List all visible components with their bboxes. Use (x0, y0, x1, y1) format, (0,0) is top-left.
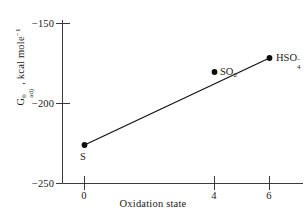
series-line-sulfur (85, 58, 270, 145)
data-point-so2[interactable] (212, 69, 218, 75)
point-label-hso4-base: HSO (276, 52, 297, 63)
y-axis-units: , kcal mole (15, 36, 26, 85)
y-tick-label-minus250: −250 (14, 179, 54, 190)
chart-figure: −150 −200 −250 0 4 6 Oxidation state G0a… (0, 0, 306, 215)
y-axis-title-text: G0adj, kcal mole−1 (15, 28, 26, 105)
data-point-hso4[interactable] (267, 55, 273, 61)
point-label-so2-base: SO (220, 66, 233, 77)
point-label-so2-subscript: 2 (233, 71, 237, 79)
point-label-s: S (80, 152, 86, 163)
point-label-s-text: S (80, 151, 86, 162)
x-axis-title: Oxidation state (0, 198, 306, 209)
y-axis-subscript: adj (27, 89, 35, 98)
y-axis-title: G0adj, kcal mole−1 (10, 0, 28, 142)
point-label-hso4-subscript: 4 (297, 64, 301, 71)
point-label-so2: SO2 (220, 67, 237, 79)
y-axis-units-exponent: −1 (14, 28, 22, 36)
data-point-s[interactable] (82, 142, 88, 148)
point-label-hso4: HSO−4 (276, 53, 297, 64)
x-axis-title-text: Oxidation state (120, 198, 187, 209)
y-axis-symbol: G (15, 98, 26, 106)
